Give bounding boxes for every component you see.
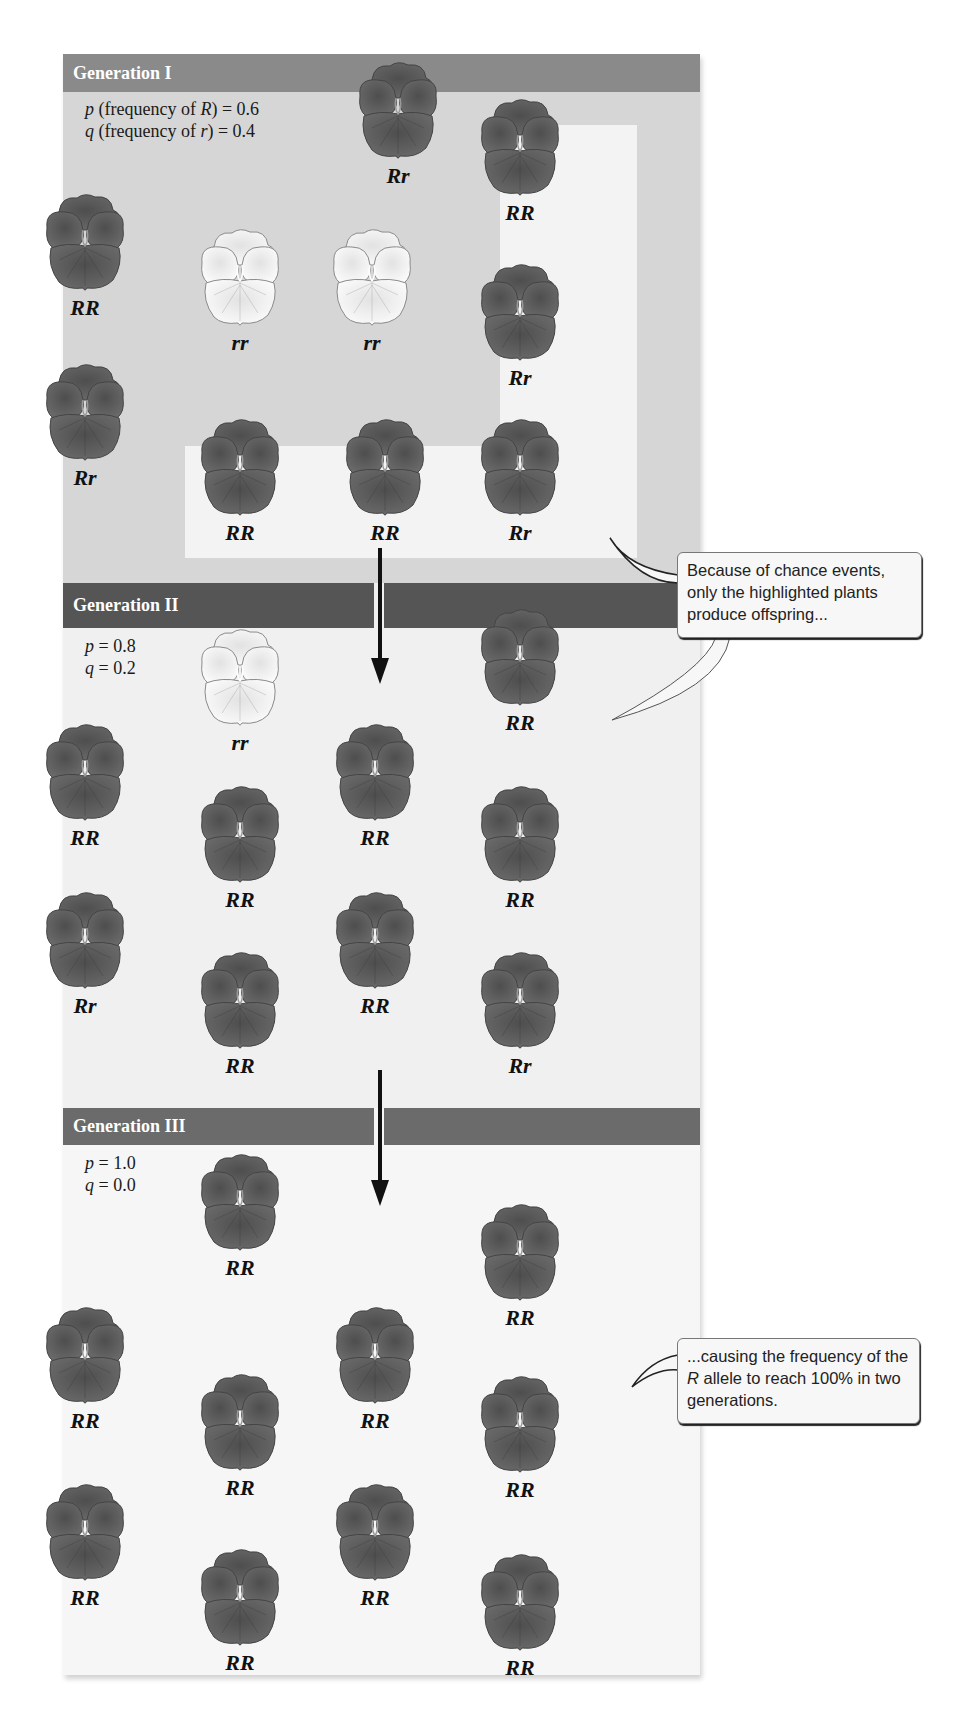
genotype-label: Rr [348,164,448,188]
genotype-label: RR [470,201,570,225]
genotype-label: RR [325,1586,425,1610]
plant-RR: RR [190,1150,290,1280]
genotype-label: RR [190,521,290,545]
dark-flower-icon [470,95,570,199]
genotype-label: Rr [470,366,570,390]
generation-1-frequencies: p (frequency of R) = 0.6 q (frequency of… [85,98,259,142]
plant-RR: RR [190,1370,290,1500]
generation-3-title: Generation III [73,1116,186,1137]
dark-flower-icon [190,415,290,519]
genotype-label: RR [190,1651,290,1675]
p-frequency: p = 0.8 [85,635,136,657]
dark-flower-icon [190,782,290,886]
generation-1-title: Generation I [73,63,172,84]
dark-flower-icon [35,888,135,992]
genotype-label: Rr [470,1054,570,1078]
generation-2-title: Generation II [73,595,179,616]
q-frequency: q (frequency of r) = 0.4 [85,120,259,142]
genotype-label: RR [325,1409,425,1433]
genotype-label: rr [190,331,290,355]
white-flower-icon [190,625,290,729]
callout-chance-events: Because of chance events, only the highl… [677,552,922,638]
genotype-label: RR [470,1478,570,1502]
arrow-head-icon [371,1180,389,1206]
plant-rr: rr [190,225,290,355]
genotype-label: RR [335,521,435,545]
genotype-label: RR [190,1054,290,1078]
genotype-label: rr [190,731,290,755]
dark-flower-icon [35,360,135,464]
dark-flower-icon [325,1480,425,1584]
dark-flower-icon [325,720,425,824]
plant-RR: RR [470,1550,570,1680]
dark-flower-icon [348,58,448,162]
plant-RR: RR [325,720,425,850]
genotype-label: RR [470,1656,570,1680]
white-flower-icon [322,225,422,329]
genotype-label: RR [190,1256,290,1280]
dark-flower-icon [470,1372,570,1476]
plant-RR: RR [325,1303,425,1433]
plant-RR: RR [470,782,570,912]
genotype-label: RR [470,888,570,912]
genotype-label: RR [190,1476,290,1500]
dark-flower-icon [35,190,135,294]
plant-RR: RR [190,782,290,912]
generation-3-frequencies: p = 1.0 q = 0.0 [85,1152,136,1196]
dark-flower-icon [190,1150,290,1254]
dark-flower-icon [470,948,570,1052]
dark-flower-icon [190,948,290,1052]
generation-2-frequencies: p = 0.8 q = 0.2 [85,635,136,679]
dark-flower-icon [470,260,570,364]
dark-flower-icon [35,720,135,824]
callout-fixation: ...causing the frequency of the R allele… [677,1338,920,1424]
plant-Rr: Rr [470,948,570,1078]
plant-RR: RR [190,415,290,545]
p-frequency: p = 1.0 [85,1152,136,1174]
dark-flower-icon [190,1370,290,1474]
plant-RR: RR [470,1200,570,1330]
genotype-label: RR [470,1306,570,1330]
plant-rr: rr [322,225,422,355]
plant-RR: RR [325,888,425,1018]
plant-RR: RR [190,1545,290,1675]
arrow-gen2-to-gen3 [378,1070,382,1182]
genotype-label: RR [325,826,425,850]
dark-flower-icon [190,1545,290,1649]
genotype-label: RR [35,1409,135,1433]
genotype-label: Rr [35,994,135,1018]
dark-flower-icon [35,1303,135,1407]
dark-flower-icon [470,605,570,709]
plant-rr: rr [190,625,290,755]
genotype-label: Rr [470,521,570,545]
dark-flower-icon [325,888,425,992]
genotype-label: RR [35,1586,135,1610]
plant-Rr: Rr [35,360,135,490]
arrow-gen1-to-gen2 [378,548,382,660]
plant-RR: RR [35,1303,135,1433]
dark-flower-icon [325,1303,425,1407]
genotype-label: RR [325,994,425,1018]
plant-Rr: Rr [470,260,570,390]
p-frequency: p (frequency of R) = 0.6 [85,98,259,120]
plant-RR: RR [35,1480,135,1610]
dark-flower-icon [335,415,435,519]
white-flower-icon [190,225,290,329]
plant-RR: RR [470,605,570,735]
dark-flower-icon [470,1550,570,1654]
plant-RR: RR [190,948,290,1078]
plant-RR: RR [335,415,435,545]
plant-Rr: Rr [470,415,570,545]
plant-Rr: Rr [35,888,135,1018]
arrow-head-icon [371,658,389,684]
q-frequency: q = 0.2 [85,657,136,679]
dark-flower-icon [35,1480,135,1584]
plant-RR: RR [470,95,570,225]
dark-flower-icon [470,782,570,886]
dark-flower-icon [470,415,570,519]
plant-RR: RR [325,1480,425,1610]
dark-flower-icon [470,1200,570,1304]
genotype-label: RR [470,711,570,735]
genotype-label: RR [190,888,290,912]
genotype-label: RR [35,296,135,320]
